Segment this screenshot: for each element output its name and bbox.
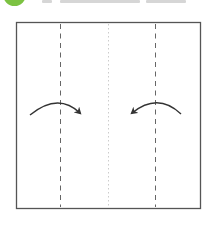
folding-diagram: [0, 0, 211, 228]
